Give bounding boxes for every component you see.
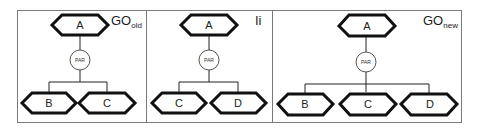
svg-text:PAR: PAR	[361, 59, 371, 65]
node-child: B	[22, 93, 76, 113]
node-parent: A	[181, 15, 237, 35]
panel-label: GOnew	[423, 13, 458, 30]
svg-text:A: A	[363, 20, 371, 32]
panel-label: Ii	[255, 13, 262, 28]
diagram-canvas: GOold A PAR B C Ii A	[0, 0, 479, 130]
panel-ii: Ii A PAR C D	[152, 13, 266, 113]
node-child: D	[401, 94, 457, 115]
edge-bus	[49, 82, 107, 92]
node-child: D	[211, 93, 266, 113]
node-child: C	[79, 93, 135, 113]
svg-text:PAR: PAR	[75, 57, 85, 63]
edge-bus	[179, 82, 238, 92]
svg-text:D: D	[234, 97, 242, 109]
svg-text:B: B	[301, 98, 308, 110]
node-parent: A	[52, 15, 108, 35]
operator-node: PAR	[199, 50, 219, 70]
svg-text:A: A	[205, 19, 213, 31]
svg-text:C: C	[364, 98, 372, 110]
svg-text:B: B	[45, 97, 52, 109]
svg-text:PAR: PAR	[204, 57, 214, 63]
node-child: C	[340, 94, 396, 115]
edge-bus	[305, 84, 429, 93]
node-child: B	[278, 94, 333, 115]
panel-go-new: GOnew A PAR B C D	[278, 13, 458, 115]
svg-text:D: D	[426, 98, 434, 110]
panel-go-old: GOold A PAR B C	[22, 13, 142, 113]
node-parent: A	[339, 15, 395, 36]
operator-node: PAR	[70, 50, 90, 70]
svg-text:A: A	[76, 19, 84, 31]
svg-text:C: C	[103, 97, 111, 109]
svg-text:C: C	[175, 97, 183, 109]
operator-node: PAR	[356, 52, 376, 72]
panel-label: GOold	[111, 13, 142, 30]
node-child: C	[152, 93, 206, 113]
